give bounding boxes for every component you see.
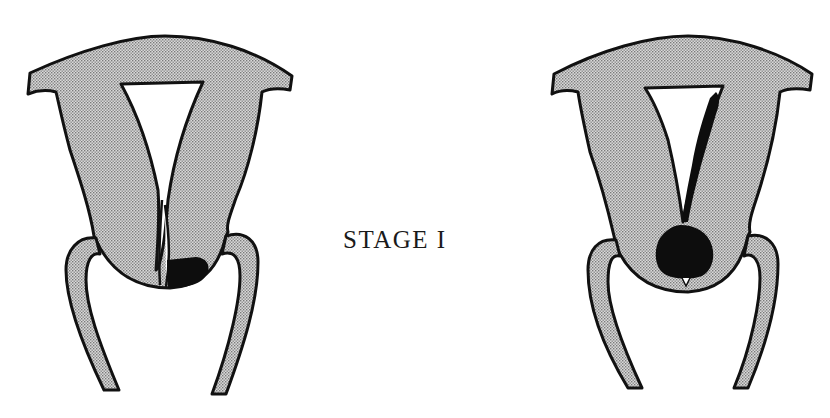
uterus-diagram-left (0, 0, 320, 418)
lesion-cervix (167, 257, 209, 288)
stage-label: STAGE I (343, 226, 447, 254)
uterus-diagram-right (520, 0, 830, 418)
diagram-canvas: STAGE I (0, 0, 830, 418)
